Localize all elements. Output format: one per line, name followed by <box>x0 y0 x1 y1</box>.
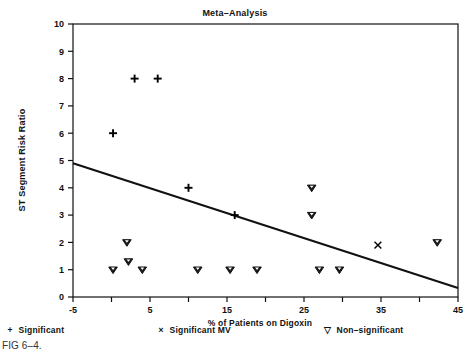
y-axis-tick-label: 3 <box>59 210 64 220</box>
legend-item-significant-mv: × Significant MV <box>155 325 231 335</box>
x-axis-tick-label: 5 <box>147 305 152 315</box>
cross-marker-icon: × <box>155 325 167 335</box>
legend-label-non-significant: Non–significant <box>337 325 404 335</box>
plus-marker-icon: + <box>4 325 16 335</box>
x-axis-tick-label: 25 <box>299 305 309 315</box>
figure-caption: FIG 6–4. <box>2 340 42 351</box>
data-point-plus <box>109 129 117 137</box>
legend-label-significant-mv: Significant MV <box>170 325 231 335</box>
y-axis-tick-label: 7 <box>59 101 64 111</box>
legend-item-significant: + Significant <box>4 325 64 335</box>
x-axis-tick-label: 45 <box>453 305 463 315</box>
y-axis-tick-label: 5 <box>59 156 64 166</box>
y-axis-tick-label: 1 <box>59 265 64 275</box>
legend-item-non-significant: ▽ Non–significant <box>322 325 403 335</box>
y-axis-tick-label: 9 <box>59 47 64 57</box>
legend: + Significant × Significant MV ▽ Non–sig… <box>0 325 470 343</box>
x-axis-tick-label: 15 <box>222 305 232 315</box>
legend-label-significant: Significant <box>19 325 65 335</box>
regression-line <box>73 163 458 288</box>
data-point-cross <box>375 242 382 249</box>
triangle-down-marker-icon: ▽ <box>322 325 334 335</box>
scatter-plot: 012345678910-5515253545 <box>0 0 470 354</box>
x-axis-tick-label: -5 <box>69 305 77 315</box>
x-axis-tick-label: 35 <box>376 305 386 315</box>
y-axis-tick-label: 2 <box>59 238 64 248</box>
y-axis-tick-label: 8 <box>59 74 64 84</box>
y-axis-tick-label: 0 <box>59 292 64 302</box>
data-point-plus <box>231 211 239 219</box>
data-point-plus <box>154 75 162 83</box>
data-point-plus <box>131 75 139 83</box>
plot-frame <box>73 24 458 297</box>
y-axis-tick-label: 4 <box>59 183 64 193</box>
figure-container: Meta–Analysis ST Segment Risk Ratio 0123… <box>0 0 470 354</box>
y-axis-tick-label: 10 <box>54 19 64 29</box>
y-axis-tick-label: 6 <box>59 129 64 139</box>
data-point-plus <box>185 184 193 192</box>
